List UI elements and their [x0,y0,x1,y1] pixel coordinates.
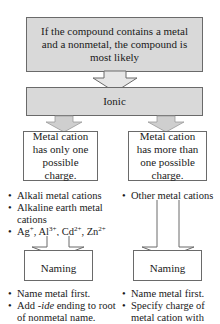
top-condition-text: If the compound contains a metal and a n… [37,25,192,64]
one-charge-text: Metal cation has only one possible charg… [28,130,93,182]
naming-rules-right: Name metal first. Specify charge of meta… [122,288,220,324]
naming-box-right: Naming [133,250,202,281]
multi-charge-box: Metal cation has more than one possible … [128,131,207,181]
one-charge-box: Metal cation has only one possible charg… [23,131,98,181]
naming-box-left: Naming [24,250,93,281]
naming-rules-left: Name metal first. Add -ide ending to roo… [8,288,118,324]
naming-label: Naming [41,256,76,275]
rule-item: Add -ide ending to root of nonmetal name… [8,300,118,324]
top-condition-box: If the compound contains a metal and a n… [26,17,203,72]
multi-charge-text: Metal cation has more than one possible … [133,130,202,182]
naming-label: Naming [150,256,185,275]
example-item: Alkaline earth metal cations [8,202,118,226]
example-item: Alkali metal cations [8,190,118,202]
ionic-box: Ionic [26,87,203,116]
rule-item: Specify charge of metal cation with [122,300,220,324]
ionic-label: Ionic [103,95,126,108]
rule-item: Name metal first. [8,288,118,300]
rule-item: Name metal first. [122,288,220,300]
one-charge-examples: Alkali metal cations Alkaline earth meta… [8,190,118,238]
